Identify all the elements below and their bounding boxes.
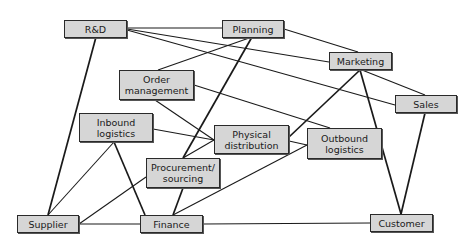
edge-finance-customer [203, 223, 370, 224]
node-planning: Planning [222, 20, 284, 38]
node-sales: Sales [395, 95, 457, 113]
edge-marketing-physical-distribution [289, 70, 360, 137]
node-supplier: Supplier [17, 215, 79, 233]
edge-inbound-physical-distribution [153, 129, 214, 140]
edge-physical-outbound [289, 141, 307, 145]
node-procurement-sourcing: Procurement/ sourcing [146, 158, 220, 188]
node-rd: R&D [64, 20, 127, 38]
edge-sales-customer [401, 113, 425, 214]
node-physical-distribution: Physical distribution [214, 125, 289, 154]
edge-order-outbound [194, 85, 330, 128]
edge-marketing-sales [362, 70, 425, 95]
edge-planning-marketing [284, 29, 358, 52]
edge-procurement-supplier [79, 177, 146, 224]
node-inbound-logistics: Inbound logistics [79, 113, 153, 142]
node-outbound-logistics: Outbound logistics [307, 128, 382, 159]
edge-inbound-finance [114, 142, 145, 215]
value-chain-network-diagram: R&D Planning Marketing Sales Order manag… [0, 0, 471, 245]
node-finance: Finance [140, 215, 203, 233]
node-order-management: Order management [119, 70, 194, 100]
node-marketing: Marketing [329, 52, 392, 70]
node-customer: Customer [370, 214, 433, 232]
